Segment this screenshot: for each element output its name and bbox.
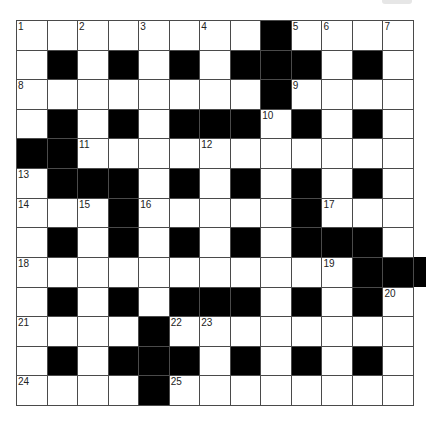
grid-cell[interactable] — [17, 347, 47, 376]
grid-cell[interactable] — [139, 139, 169, 168]
grid-cell[interactable] — [48, 376, 78, 405]
grid-cell[interactable] — [139, 258, 169, 287]
grid-cell[interactable]: 17 — [322, 199, 352, 228]
grid-cell[interactable] — [353, 80, 383, 109]
grid-cell[interactable] — [109, 376, 139, 405]
grid-cell[interactable] — [78, 258, 108, 287]
grid-cell[interactable] — [261, 376, 291, 405]
grid-cell[interactable] — [383, 317, 413, 346]
grid-cell[interactable] — [200, 169, 230, 198]
grid-cell[interactable] — [78, 347, 108, 376]
grid-cell[interactable] — [170, 80, 200, 109]
grid-cell[interactable] — [200, 258, 230, 287]
grid-cell[interactable]: 25 — [170, 376, 200, 405]
grid-cell[interactable] — [231, 199, 261, 228]
grid-cell[interactable] — [353, 376, 383, 405]
grid-cell[interactable] — [200, 376, 230, 405]
grid-cell[interactable] — [322, 169, 352, 198]
grid-cell[interactable] — [78, 317, 108, 346]
grid-cell[interactable] — [383, 110, 413, 139]
grid-cell[interactable]: 2 — [78, 21, 108, 50]
grid-cell[interactable] — [261, 317, 291, 346]
grid-cell[interactable]: 19 — [322, 258, 352, 287]
grid-cell[interactable] — [109, 21, 139, 50]
grid-cell[interactable] — [78, 110, 108, 139]
grid-cell[interactable] — [261, 258, 291, 287]
grid-cell[interactable]: 9 — [292, 80, 322, 109]
grid-cell[interactable] — [353, 317, 383, 346]
grid-cell[interactable]: 12 — [200, 139, 230, 168]
grid-cell[interactable] — [353, 199, 383, 228]
grid-cell[interactable] — [231, 376, 261, 405]
grid-cell[interactable] — [109, 139, 139, 168]
grid-cell[interactable] — [78, 51, 108, 80]
grid-cell[interactable] — [292, 139, 322, 168]
grid-cell[interactable]: 6 — [322, 21, 352, 50]
grid-cell[interactable] — [383, 228, 413, 257]
grid-cell[interactable]: 23 — [200, 317, 230, 346]
grid-cell[interactable]: 18 — [17, 258, 47, 287]
grid-cell[interactable]: 21 — [17, 317, 47, 346]
grid-cell[interactable] — [383, 169, 413, 198]
grid-cell[interactable] — [231, 80, 261, 109]
grid-cell[interactable]: 3 — [139, 21, 169, 50]
grid-cell[interactable] — [139, 228, 169, 257]
grid-cell[interactable] — [48, 258, 78, 287]
grid-cell[interactable]: 20 — [383, 288, 413, 317]
grid-cell[interactable] — [261, 199, 291, 228]
grid-cell[interactable] — [139, 169, 169, 198]
grid-cell[interactable]: 5 — [292, 21, 322, 50]
grid-cell[interactable] — [322, 288, 352, 317]
grid-cell[interactable] — [261, 288, 291, 317]
grid-cell[interactable] — [170, 21, 200, 50]
grid-cell[interactable] — [109, 258, 139, 287]
grid-cell[interactable] — [78, 376, 108, 405]
grid-cell[interactable] — [17, 228, 47, 257]
grid-cell[interactable] — [383, 199, 413, 228]
grid-cell[interactable] — [48, 80, 78, 109]
grid-cell[interactable] — [200, 228, 230, 257]
grid-cell[interactable] — [170, 199, 200, 228]
grid-cell[interactable] — [139, 110, 169, 139]
grid-cell[interactable]: 24 — [17, 376, 47, 405]
grid-cell[interactable] — [231, 21, 261, 50]
grid-cell[interactable] — [353, 21, 383, 50]
grid-cell[interactable]: 11 — [78, 139, 108, 168]
grid-cell[interactable] — [261, 228, 291, 257]
grid-cell[interactable] — [292, 376, 322, 405]
grid-cell[interactable] — [383, 80, 413, 109]
grid-cell[interactable]: 22 — [170, 317, 200, 346]
grid-cell[interactable] — [292, 317, 322, 346]
grid-cell[interactable] — [322, 80, 352, 109]
grid-cell[interactable] — [322, 51, 352, 80]
grid-cell[interactable] — [200, 199, 230, 228]
grid-cell[interactable] — [109, 80, 139, 109]
grid-cell[interactable] — [48, 21, 78, 50]
grid-cell[interactable]: 10 — [261, 110, 291, 139]
grid-cell[interactable] — [200, 347, 230, 376]
grid-cell[interactable] — [231, 139, 261, 168]
grid-cell[interactable] — [322, 376, 352, 405]
grid-cell[interactable] — [48, 199, 78, 228]
grid-cell[interactable]: 8 — [17, 80, 47, 109]
grid-cell[interactable] — [322, 317, 352, 346]
grid-cell[interactable] — [322, 139, 352, 168]
grid-cell[interactable] — [261, 347, 291, 376]
grid-cell[interactable] — [353, 139, 383, 168]
grid-cell[interactable] — [322, 110, 352, 139]
grid-cell[interactable] — [78, 288, 108, 317]
grid-cell[interactable]: 7 — [383, 21, 413, 50]
grid-cell[interactable] — [322, 347, 352, 376]
grid-cell[interactable] — [78, 80, 108, 109]
grid-cell[interactable] — [17, 110, 47, 139]
grid-cell[interactable] — [109, 317, 139, 346]
grid-cell[interactable] — [48, 317, 78, 346]
grid-cell[interactable]: 4 — [200, 21, 230, 50]
grid-cell[interactable] — [139, 51, 169, 80]
grid-cell[interactable] — [231, 258, 261, 287]
grid-cell[interactable] — [383, 376, 413, 405]
grid-cell[interactable] — [139, 80, 169, 109]
grid-cell[interactable] — [383, 51, 413, 80]
grid-cell[interactable] — [383, 347, 413, 376]
grid-cell[interactable]: 13 — [17, 169, 47, 198]
